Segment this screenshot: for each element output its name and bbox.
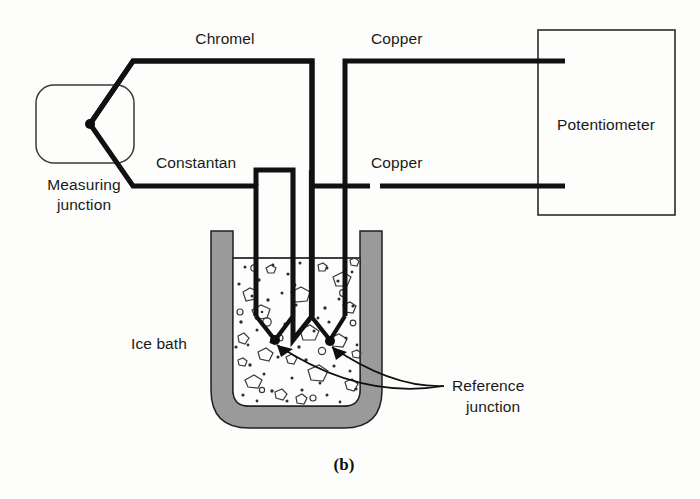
label-potentiometer: Potentiometer	[557, 116, 655, 133]
ice-bath-beaker	[211, 231, 382, 428]
reference-junction-dot-left	[270, 335, 280, 345]
label-reference-junction-2: junction	[465, 398, 520, 415]
label-copper-bottom: Copper	[371, 154, 422, 171]
label-measuring-junction-2: junction	[56, 196, 111, 213]
label-chromel: Chromel	[195, 30, 254, 47]
measuring-junction-dot	[85, 119, 95, 129]
reference-junction-dot-right	[325, 336, 335, 346]
figure-caption: (b)	[334, 455, 355, 474]
label-measuring-junction-1: Measuring	[47, 176, 120, 193]
label-copper-top: Copper	[371, 30, 422, 47]
label-ice-bath: Ice bath	[131, 335, 187, 352]
label-reference-junction-1: Reference	[452, 377, 524, 394]
diagram-canvas: Chromel Constantan Copper Copper Potenti…	[0, 0, 700, 499]
thermocouple-reference-junction-diagram: Chromel Constantan Copper Copper Potenti…	[0, 0, 700, 499]
label-constantan: Constantan	[156, 154, 236, 171]
